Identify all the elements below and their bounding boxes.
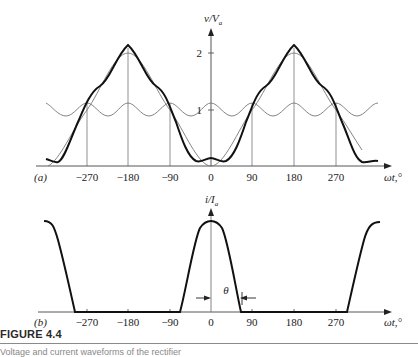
x-tick-b: 180 — [286, 316, 303, 328]
x-tick-b: 90 — [247, 316, 259, 328]
x-tick-a: 270 — [328, 171, 345, 183]
x-tick-a: 0 — [208, 171, 214, 183]
x-tick-b: −90 — [161, 316, 179, 328]
theta-arrow-left-icon — [204, 296, 211, 301]
current-waveform — [44, 221, 380, 312]
caption-divider — [0, 343, 418, 344]
figure-caption-text: Voltage and current waveforms of the rec… — [0, 347, 418, 357]
x-axis-label-a: ωt,° — [384, 171, 403, 183]
y-axis-arrow-icon — [208, 208, 214, 216]
x-tick-b: 270 — [328, 316, 345, 328]
x-tick-b: −270 — [76, 316, 99, 328]
x-tick-a: 90 — [247, 171, 259, 183]
y-axis-label-b: i/Ia — [205, 193, 219, 208]
panel-b: θ (b) −270 −180 −90 0 90 180 270 ωt,° i/… — [34, 193, 403, 329]
figure-canvas: (a) −270 −180 −90 0 90 180 270 ωt,° 1 2 … — [0, 0, 418, 357]
panel-a-label: (a) — [34, 171, 47, 184]
y-axis-arrow-icon — [208, 28, 214, 36]
x-tick-a: −180 — [117, 171, 140, 183]
theta-arrow-right-icon — [240, 296, 247, 301]
fundamental-curve — [48, 53, 362, 166]
panel-a: (a) −270 −180 −90 0 90 180 270 ωt,° 1 2 … — [34, 12, 403, 184]
theta-label: θ — [223, 284, 229, 296]
voltage-waveform — [46, 45, 378, 162]
x-tick-a: 180 — [286, 171, 303, 183]
reference-lines — [87, 48, 336, 166]
y-tick-a-1: 1 — [197, 104, 203, 116]
x-tick-b: 0 — [208, 316, 214, 328]
x-tick-a: −270 — [76, 171, 99, 183]
figure-caption-title: FIGURE 4.4 — [0, 328, 62, 340]
x-axis-label-b: ωt,° — [384, 316, 403, 328]
x-tick-a: −90 — [161, 171, 179, 183]
y-tick-a-2: 2 — [197, 47, 203, 59]
ripple-curve — [46, 103, 378, 116]
y-axis-label-a: v/Va — [204, 12, 223, 27]
x-axis-arrow-icon — [384, 309, 392, 315]
x-axis-arrow-icon — [384, 163, 392, 169]
x-tick-b: −180 — [117, 316, 140, 328]
